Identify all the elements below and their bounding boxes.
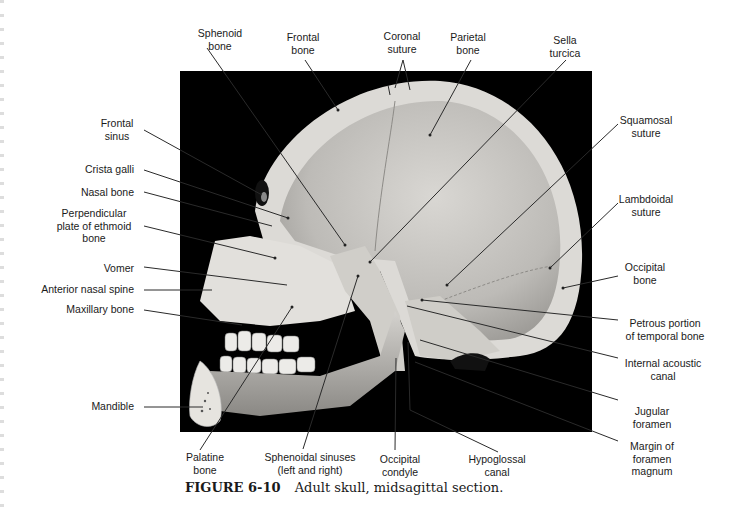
label-margin-foramen-magnum: Margin of foramen magnum — [630, 440, 674, 478]
label-coronal-suture: Coronal suture — [384, 30, 421, 55]
label-frontal-bone: Frontal bone — [287, 31, 320, 56]
label-mandible: Mandible — [91, 400, 134, 413]
label-maxillary-bone: Maxillary bone — [66, 303, 134, 316]
skull-illustration — [180, 71, 592, 432]
label-palatine-bone: Palatine bone — [186, 451, 224, 476]
label-jugular-foramen: Jugular foramen — [633, 405, 672, 430]
page-edge — [0, 0, 4, 507]
label-sphenoidal-sinuses: Sphenoidal sinuses (left and right) — [264, 451, 355, 476]
figure-caption: FIGURE 6-10 Adult skull, midsagittal sec… — [185, 480, 503, 495]
label-vomer: Vomer — [104, 262, 134, 275]
label-parietal-bone: Parietal bone — [450, 31, 486, 56]
label-occipital-condyle: Occipital condyle — [380, 453, 420, 478]
skull-photograph — [180, 71, 592, 432]
label-sella-turcica: Sella turcica — [550, 34, 581, 59]
label-perpendicular-plate: Perpendicular plate of ethmoid bone — [57, 207, 132, 245]
label-sphenoid-bone: Sphenoid bone — [198, 27, 242, 52]
label-frontal-sinus: Frontal sinus — [101, 117, 134, 142]
figure-caption-text: Adult skull, midsagittal section. — [295, 480, 504, 495]
label-anterior-nasal-spine: Anterior nasal spine — [41, 283, 134, 296]
label-lambdoidal-suture: Lambdoidal suture — [619, 193, 673, 218]
label-hypoglossal-canal: Hypoglossal canal — [468, 453, 525, 478]
label-petrous-portion: Petrous portion of temporal bone — [626, 317, 705, 342]
label-crista-galli: Crista galli — [85, 163, 134, 176]
label-squamosal-suture: Squamosal suture — [620, 114, 673, 139]
label-internal-acoustic-canal: Internal acoustic canal — [625, 357, 701, 382]
label-occipital-bone: Occipital bone — [625, 261, 665, 286]
figure-number: FIGURE 6-10 — [185, 480, 281, 495]
label-nasal-bone: Nasal bone — [81, 186, 134, 199]
